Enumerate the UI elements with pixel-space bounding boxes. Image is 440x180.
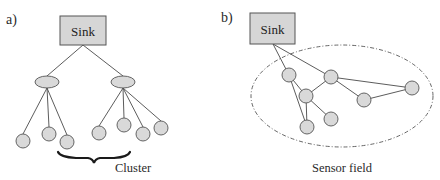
sensor-node — [300, 120, 314, 134]
sensor-node — [16, 134, 30, 148]
sensor-node — [299, 89, 313, 103]
sensor-node — [324, 112, 338, 126]
cluster-heads — [35, 76, 135, 88]
sensor-node — [282, 68, 296, 82]
sensor-node — [60, 135, 74, 149]
panel-a-label: a) — [6, 12, 17, 28]
cluster-head-node — [111, 76, 135, 88]
head-to-member-edge — [123, 88, 124, 118]
network-topology-diagram: a) Sink Cluster b) Sink Sensor field — [0, 0, 440, 180]
sink-to-head-edge — [47, 45, 83, 76]
cluster-label: Cluster — [115, 161, 152, 175]
link-edge — [331, 77, 412, 88]
panel-a-hierarchical: a) Sink Cluster — [6, 12, 168, 175]
head-to-member-edge — [123, 88, 161, 121]
cluster-head-node — [35, 76, 59, 88]
panel-b-flat: b) Sink Sensor field — [221, 10, 433, 175]
sensor-node — [136, 127, 150, 141]
sensor-node — [357, 93, 371, 107]
sensor-field-label: Sensor field — [312, 161, 373, 175]
panel-b-label: b) — [221, 10, 233, 26]
panel-a-edges — [23, 45, 161, 135]
sensor-node — [92, 126, 106, 140]
cluster-member-nodes — [16, 118, 168, 149]
head-to-member-edge — [47, 88, 49, 127]
panel-b-edges — [273, 44, 412, 127]
sink-to-head-edge — [83, 45, 123, 76]
sensor-node — [324, 70, 338, 84]
head-to-member-edge — [23, 88, 47, 134]
sensor-node — [154, 121, 168, 135]
sensor-node — [117, 118, 131, 132]
sink-label-b: Sink — [261, 22, 285, 37]
sensor-field-boundary — [251, 45, 433, 147]
sensor-node — [405, 81, 419, 95]
sensor-nodes — [282, 68, 419, 134]
sink-label-a: Sink — [71, 24, 95, 39]
sensor-node — [42, 127, 56, 141]
